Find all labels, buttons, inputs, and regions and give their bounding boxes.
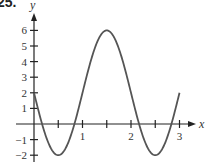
x-axis-label: x [198, 117, 205, 131]
x-axis-arrow-icon [188, 121, 196, 127]
tick-labels: xy123−2−1123456 [15, 0, 205, 161]
x-tick-label: 2 [128, 130, 134, 142]
y-tick-label: 1 [22, 102, 28, 114]
y-axis-label: y [29, 0, 36, 12]
function-graph: xy123−2−1123456 [0, 0, 209, 167]
y-tick-label: 5 [22, 40, 28, 52]
y-axis-arrow-icon [31, 13, 37, 21]
y-tick-label: 3 [22, 71, 28, 83]
y-tick-label: 6 [22, 24, 28, 36]
x-tick-label: 1 [80, 130, 86, 142]
axes [16, 13, 196, 162]
ticks [30, 30, 180, 155]
y-tick-label: −1 [15, 134, 27, 146]
x-tick-label: 3 [177, 130, 183, 142]
y-tick-label: −2 [15, 149, 27, 161]
y-tick-label: 2 [22, 87, 28, 99]
function-curve [34, 30, 180, 155]
y-tick-label: 4 [22, 56, 28, 68]
